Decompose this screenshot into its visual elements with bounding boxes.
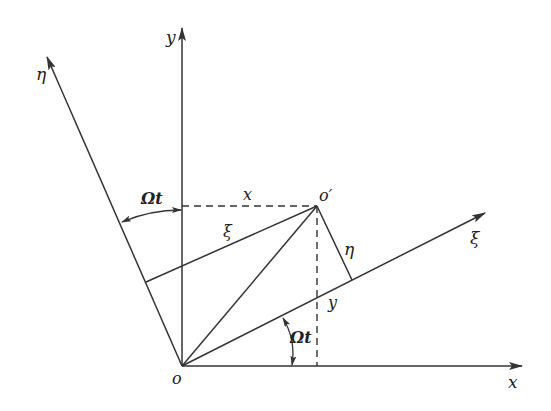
x-projection-label: x xyxy=(243,185,252,204)
xi-axis-label: ξ xyxy=(470,228,481,248)
origin-label: o xyxy=(172,369,182,388)
moving-point-label: o′ xyxy=(319,186,333,205)
y-projection-label: y xyxy=(327,293,338,312)
upper-angle-arc xyxy=(122,210,181,222)
x-axis-label: x xyxy=(508,372,518,392)
eta-axis-label: η xyxy=(36,64,47,84)
lower-angle-label: Ωt xyxy=(289,328,312,347)
xi-component-line xyxy=(146,206,317,282)
rotating-frame-diagram: y η ξ x o o′ x ξ η y Ωt Ωt xyxy=(0,0,551,411)
y-axis-label: y xyxy=(165,27,176,47)
eta-component-label: η xyxy=(344,239,355,259)
xi-component-label: ξ xyxy=(223,222,233,241)
upper-angle-label: Ωt xyxy=(140,189,163,208)
